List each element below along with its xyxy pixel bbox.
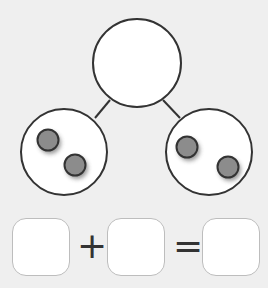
part-circle-right[interactable] (166, 109, 252, 195)
dot-icon (38, 130, 59, 151)
answer-box-sum[interactable] (202, 218, 260, 276)
dot-icon (218, 157, 239, 178)
connector-right (163, 100, 180, 118)
dot-icon (65, 155, 86, 176)
part-circle-left[interactable] (21, 109, 107, 195)
connector-left (95, 100, 110, 118)
whole-circle[interactable] (93, 19, 181, 107)
number-bond-diagram (0, 0, 268, 210)
equals-sign: = (173, 226, 203, 266)
dot-icon (177, 137, 198, 158)
answer-box-addend-1[interactable] (12, 218, 70, 276)
answer-box-addend-2[interactable] (107, 218, 165, 276)
plus-sign: + (77, 226, 107, 266)
